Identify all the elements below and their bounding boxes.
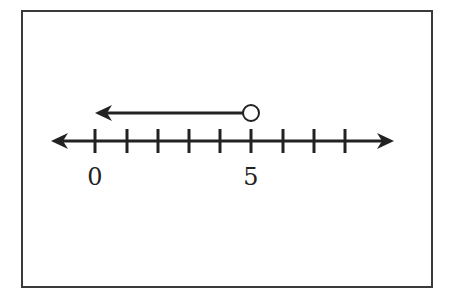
- number-line: [51, 133, 394, 149]
- tick-label-5: 5: [243, 163, 258, 191]
- solution-ray: [95, 105, 259, 121]
- tick-label-0: 0: [87, 163, 102, 191]
- number-line-diagram: 0 5: [0, 0, 457, 293]
- open-circle-endpoint-icon: [243, 105, 259, 121]
